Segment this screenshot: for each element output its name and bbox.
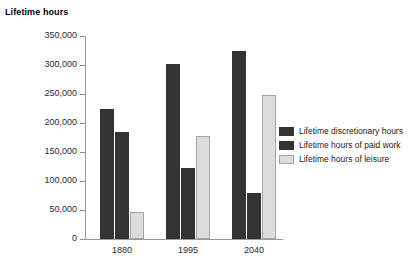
legend-item: Lifetime hours of paid work (279, 139, 403, 151)
y-axis-tick (80, 36, 85, 37)
legend-swatch (279, 127, 294, 136)
legend-item: Lifetime discretionary hours (279, 125, 403, 137)
y-axis-title: Lifetime hours (5, 7, 68, 17)
y-axis-tick-label: 150,000 (7, 146, 77, 156)
bar-group (166, 36, 210, 239)
legend-label: Lifetime hours of leisure (299, 154, 389, 164)
bar (181, 168, 195, 239)
legend-label: Lifetime discretionary hours (299, 126, 403, 136)
y-axis-line (85, 36, 86, 240)
y-axis-tick-label: 50,000 (7, 204, 77, 214)
y-axis-tick-label: 100,000 (7, 175, 77, 185)
bar (130, 212, 144, 239)
bar-chart: Lifetime hours 050,000100,000150,000200,… (0, 0, 419, 269)
chart-legend: Lifetime discretionary hoursLifetime hou… (279, 125, 403, 167)
y-axis-tick-label: 0 (7, 233, 77, 243)
x-axis-tick-label: 2040 (224, 245, 284, 255)
plot-area (85, 36, 283, 240)
bar (166, 64, 180, 239)
y-axis-tick-label: 350,000 (7, 30, 77, 40)
y-axis-tick (80, 181, 85, 182)
x-axis-tick-label: 1880 (92, 245, 152, 255)
y-axis-tick (80, 210, 85, 211)
y-axis-tick-label: 250,000 (7, 88, 77, 98)
y-axis-tick (80, 152, 85, 153)
y-axis-tick-label: 200,000 (7, 117, 77, 127)
bar (232, 51, 246, 240)
bar-group (100, 36, 144, 239)
bar (247, 193, 261, 239)
bar (100, 109, 114, 240)
bar-group (232, 36, 276, 239)
bar (262, 95, 276, 239)
bar (196, 136, 210, 239)
legend-swatch (279, 141, 294, 150)
legend-label: Lifetime hours of paid work (299, 140, 401, 150)
y-axis-tick (80, 65, 85, 66)
legend-item: Lifetime hours of leisure (279, 153, 403, 165)
x-axis-line (85, 239, 283, 240)
y-axis-tick (80, 94, 85, 95)
x-axis-tick-label: 1995 (158, 245, 218, 255)
y-axis-tick (80, 239, 85, 240)
legend-swatch (279, 155, 294, 164)
y-axis-tick-label: 300,000 (7, 59, 77, 69)
bar (115, 132, 129, 239)
y-axis-tick (80, 123, 85, 124)
